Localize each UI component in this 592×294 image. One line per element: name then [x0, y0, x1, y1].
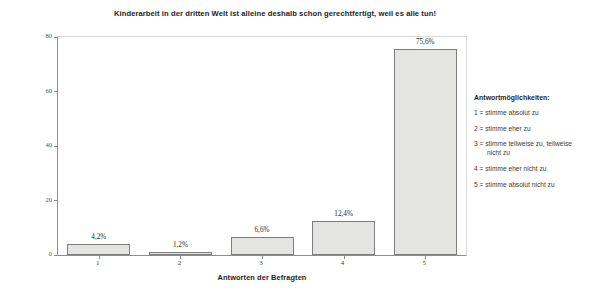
y-tick-label: 80	[45, 32, 52, 39]
legend-title: Antwortmöglichkeiten:	[474, 94, 586, 101]
legend-item: 2 = stimme eher zu	[474, 125, 586, 134]
bar-value-label: 75,6%	[394, 38, 457, 46]
legend-item: 1 = stimme absolut zu	[474, 109, 586, 118]
bar	[67, 244, 130, 255]
chart-title: Kinderarbeit in der dritten Welt ist all…	[60, 9, 490, 18]
x-tick-label: 4	[323, 259, 363, 267]
legend-item: 4 = stimme eher nicht zu	[474, 165, 586, 174]
bar-value-label: 6,6%	[231, 226, 294, 234]
y-tick-label: 60	[45, 87, 52, 94]
x-tick-label: 5	[404, 259, 444, 267]
legend: Antwortmöglichkeiten: 1 = stimme absolut…	[474, 94, 586, 196]
plot-inner: 0204060804,2%1,2%6,6%12,4%75,6%	[58, 37, 466, 255]
y-tick-mark	[54, 146, 58, 147]
y-tick-mark	[54, 91, 58, 92]
x-axis-label: Antworten der Befragten	[57, 273, 467, 282]
bar	[394, 49, 457, 255]
plot-area: 0204060804,2%1,2%6,6%12,4%75,6%	[57, 36, 467, 256]
legend-items: 1 = stimme absolut zu2 = stimme eher zu3…	[474, 109, 586, 189]
bar-chart: Kinderarbeit in der dritten Welt ist all…	[0, 0, 592, 294]
bar	[312, 221, 375, 255]
x-tick-label: 2	[159, 259, 199, 267]
y-tick-label: 40	[45, 141, 52, 148]
legend-item: 3 = stimme teilweise zu, teilweise nicht…	[474, 140, 586, 157]
bar-value-label: 1,2%	[149, 241, 212, 249]
y-tick-label: 20	[45, 196, 52, 203]
y-tick-mark	[54, 255, 58, 256]
y-tick-label: 0	[49, 250, 52, 257]
legend-item: 5 = stimme absolut nicht zu	[474, 181, 586, 190]
x-tick-label: 1	[78, 259, 118, 267]
bar-value-label: 4,2%	[67, 233, 130, 241]
x-tick-label: 3	[241, 259, 281, 267]
bar	[231, 237, 294, 255]
y-tick-mark	[54, 37, 58, 38]
bar-value-label: 12,4%	[312, 210, 375, 218]
y-tick-mark	[54, 200, 58, 201]
